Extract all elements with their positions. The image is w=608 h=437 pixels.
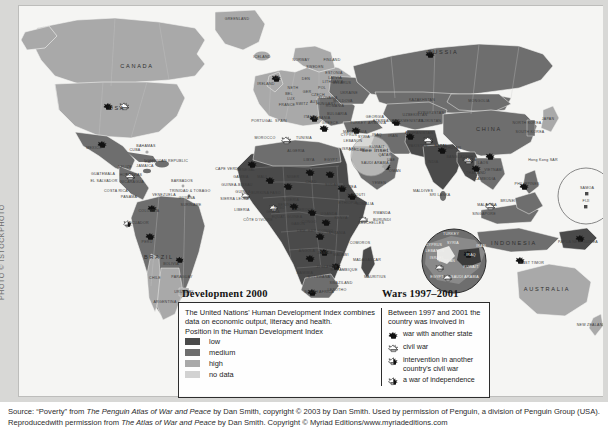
map-country-label: ZIMBABWE (316, 265, 338, 269)
map-country-label: TAJIKISTAN (419, 119, 441, 123)
hdi-swatch-high (185, 360, 200, 368)
map-country-label: TURKEY (350, 121, 366, 125)
map-country-label: ZAMBIA (318, 251, 333, 255)
war-legend-row: intervention in another country's civil … (388, 356, 485, 373)
legend-title-development: Development 2000 (182, 288, 268, 299)
hdi-swatch-label: medium (209, 348, 235, 357)
inset-country-label: TURKEY (443, 232, 459, 236)
map-country-label: SRI LANKA (429, 193, 450, 197)
caption-line1-italic: The Penguin Atlas of War and Peace (87, 407, 212, 416)
map-country-label: DOMINICAN REPUBLIC (144, 159, 188, 163)
war-legend-label: war with another state (403, 330, 472, 338)
caption-line1-a: Source: “Poverty” from (8, 407, 87, 416)
map-country-label: IRELAND (257, 82, 274, 86)
map-country-label: BOTSWANA (308, 275, 331, 279)
war-legend-row: war with another state (388, 330, 485, 340)
map-country-label: SURINAME (181, 203, 202, 207)
map-country-label: ETHIOPIA (339, 201, 358, 205)
map-country-label: KYRGYZSTAN (418, 111, 445, 115)
map-country-label: OMAN (389, 169, 401, 173)
hdi-swatch-row: no data (185, 369, 377, 380)
map-country-label: MALAYSIA (477, 203, 497, 207)
map-country-label: EL SALVADOR (90, 179, 117, 183)
map-country-label: MALAWI (333, 253, 349, 257)
map-country-label: BHUTAN (445, 146, 461, 150)
map-country-label: MADAGASCAR (353, 258, 381, 262)
map-country-label: MONGOLIA (468, 99, 490, 103)
map-country-label: ALGERIA (287, 149, 305, 153)
war-legend-label: civil war (403, 343, 428, 351)
map-country-label: CYPRUS (341, 133, 358, 137)
map-country-label: MALI (257, 175, 266, 179)
map-country-label: RWANDA (373, 211, 391, 215)
war-legend-row: civil war (388, 343, 485, 353)
map-region-label: RUSSIA (427, 49, 458, 55)
inset-country-label: IRAQ (466, 253, 476, 257)
map-country-label: FRANCE (279, 103, 296, 107)
inset-country-label: SAUDI ARABIA (451, 275, 479, 279)
map-country-label: LAOS (478, 161, 489, 165)
map-country-label: BURMA (462, 158, 477, 162)
map-region-label: CHINA (476, 126, 502, 132)
map-country-label: SUDAN (325, 183, 339, 187)
map-country-label: SWITZ (296, 102, 309, 106)
hdi-swatch-label: high (209, 359, 223, 368)
map-country-label: LIBYA (303, 158, 315, 162)
map-country-label: HONDURAS (120, 173, 143, 177)
map-country-label: BOLIVIA (163, 262, 179, 266)
map-country-label: JAPAN (542, 117, 555, 121)
map-country-label: UK (274, 76, 280, 80)
screenshot-root: PHOTO © ISTOCKPHOTO (0, 0, 608, 437)
map-country-label: PARAGUAY (171, 275, 193, 279)
map-country-label: NORTH KOREA (512, 121, 541, 125)
caption-line2-b: by Dan Smith. Copyright © Myriad Edition… (216, 418, 448, 427)
war-legend-label: intervention in another country's civil … (403, 356, 485, 373)
hdi-swatch-label: no data (209, 370, 234, 379)
legend-box: The United Nations' Human Development In… (178, 302, 490, 398)
map-country-label: PORTUGAL (251, 119, 273, 123)
map-country-label: KAZAKHSTAN (409, 98, 435, 102)
map-country-label: CÔTE D'IVOIRE (243, 217, 273, 222)
map-country-label: COSTA RICA (104, 189, 128, 193)
map-country-label: SIERRA LEONE (220, 197, 250, 201)
map-country-label: PERU (142, 240, 153, 244)
map-country-label: NETH (288, 86, 299, 90)
map-country-label: VIETNAM (484, 168, 502, 172)
legend-title-wars: Wars 1997–2001 (382, 288, 459, 299)
map-country-label: BARBADOS (171, 179, 193, 183)
map-country-label: COMOROS (350, 241, 371, 245)
map-region-label: BRAZIL (144, 254, 174, 260)
map-country-label: COLOMBIA (139, 209, 160, 213)
development-description: The United Nations' Human Development In… (185, 308, 377, 327)
blast-outline-icon (388, 344, 399, 353)
blast-hatched-icon (388, 377, 399, 386)
hdi-swatch-no-data (185, 371, 200, 379)
hdi-swatch-row: medium (185, 347, 377, 358)
map-region-label: USA (109, 105, 126, 111)
map-country-label: NEPAL (435, 144, 448, 148)
map-country-label: UKRAINE (340, 91, 358, 95)
map-country-label: BEL (285, 92, 293, 96)
hdi-swatch-medium (185, 349, 200, 357)
source-caption: Source: “Poverty” from The Penguin Atlas… (0, 404, 608, 437)
map-country-label: MALDIVES (413, 189, 434, 193)
map-country-label: KENYA (334, 216, 348, 220)
map-country-label: GAMBIA (233, 175, 249, 179)
map-country-label: INDIA (428, 160, 439, 164)
map-country-label: Hong Kong SAR (528, 158, 558, 162)
hdi-swatch-low (185, 338, 200, 346)
map-country-label: DEN (302, 77, 310, 81)
map-country-label: EAST TIMOR (520, 261, 544, 265)
map-country-label: PHILIPPINES (515, 182, 540, 186)
map-country-label: IRAN (388, 134, 398, 138)
map-country-label: MAURITIUS (364, 275, 386, 279)
map-country-label: SINGAPORE (472, 212, 496, 216)
hdi-swatch-row: high (185, 358, 377, 369)
map-country-label: EGYPT (324, 158, 338, 162)
war-legend-label: a war of independence (403, 376, 475, 384)
map-country-label: ARGENTINA (153, 300, 177, 304)
map-country-label: ECUADOR (129, 221, 149, 225)
war-symbol-list: war with another statecivil warintervent… (388, 330, 485, 386)
map-country-label: BENIN (278, 203, 290, 207)
map-country-label: NIGERIA (283, 198, 300, 202)
